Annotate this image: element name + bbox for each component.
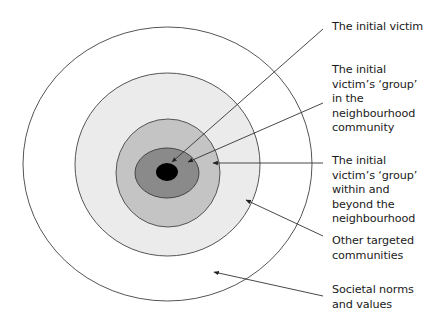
label-societal-norms: Societal norms and values (332, 283, 414, 312)
label-other-communities: Other targeted communities (332, 234, 414, 263)
core-initial-victim (156, 163, 178, 181)
label-group-beyond: The initial victim’s ‘group’ within and … (332, 154, 417, 227)
label-group-neighbourhood: The initial victim’s ‘group’ in the neig… (332, 63, 417, 136)
label-initial-victim: The initial victim (332, 20, 423, 35)
